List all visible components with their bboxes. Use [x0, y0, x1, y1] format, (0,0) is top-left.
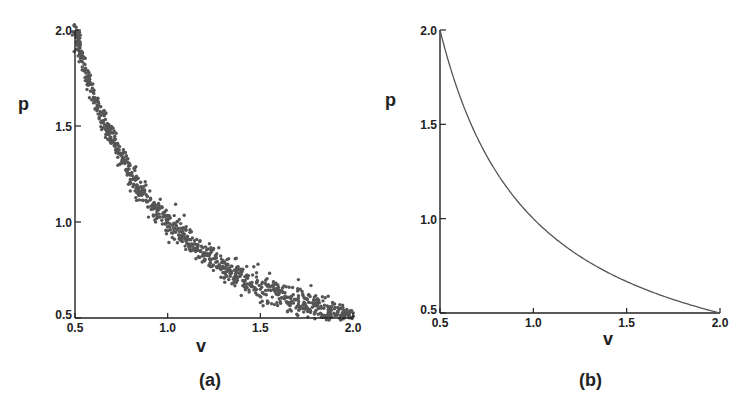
data-point [87, 84, 90, 87]
data-point [147, 215, 150, 218]
caption-b: (b) [579, 370, 602, 390]
data-point [301, 303, 304, 306]
data-point [131, 185, 134, 188]
data-point [314, 294, 317, 297]
data-point [183, 244, 186, 247]
data-point [198, 255, 201, 258]
curve-b [440, 30, 720, 313]
data-point [268, 272, 271, 275]
data-point [148, 199, 151, 202]
chart-b: 0.51.01.52.00.51.01.52.0 p v (b) [373, 0, 746, 402]
data-point [281, 291, 284, 294]
data-point [165, 232, 168, 235]
data-point [201, 251, 204, 254]
y-tick-label: 1.5 [420, 118, 437, 132]
data-point [160, 219, 163, 222]
data-point [195, 238, 198, 241]
data-point [217, 246, 220, 249]
data-point [256, 263, 259, 266]
data-point [91, 82, 94, 85]
data-point [308, 308, 311, 311]
data-point [114, 132, 117, 135]
data-point [219, 276, 222, 279]
data-point [276, 293, 279, 296]
data-point [291, 286, 294, 289]
data-point [329, 313, 332, 316]
scatter-points-a [71, 23, 355, 322]
data-point [196, 246, 199, 249]
data-point [91, 87, 94, 90]
data-point [104, 136, 107, 139]
data-point [129, 189, 132, 192]
data-point [280, 296, 283, 299]
data-point [82, 62, 85, 65]
data-point [104, 124, 107, 127]
data-point [118, 163, 121, 166]
data-point [327, 318, 330, 321]
data-point [131, 178, 134, 181]
data-point [184, 239, 187, 242]
data-point [265, 277, 268, 280]
data-point [235, 281, 238, 284]
data-point [116, 156, 119, 159]
data-point [219, 254, 222, 257]
data-point [176, 220, 179, 223]
data-point [198, 239, 201, 242]
data-point [279, 300, 282, 303]
data-point [134, 196, 137, 199]
data-point [127, 183, 130, 186]
data-point [218, 264, 221, 267]
data-point [321, 299, 324, 302]
data-point [141, 191, 144, 194]
data-point [96, 112, 99, 115]
y-tick-label: 2.0 [420, 24, 437, 38]
data-point [228, 267, 231, 270]
data-point [77, 54, 80, 57]
data-point [125, 154, 128, 157]
data-point [347, 311, 350, 314]
x-tick-label: 1.0 [159, 321, 176, 335]
data-point [308, 301, 311, 304]
data-point [87, 71, 90, 74]
data-point [182, 226, 185, 229]
data-point [212, 269, 215, 272]
data-point [103, 127, 106, 130]
data-point [146, 195, 149, 198]
data-point [297, 297, 300, 300]
data-point [122, 159, 125, 162]
y-tick-label: 1.5 [55, 120, 72, 134]
data-point [252, 265, 255, 268]
data-point [116, 143, 119, 146]
data-point [276, 304, 279, 307]
data-point [135, 184, 138, 187]
data-point [203, 258, 206, 261]
data-point [286, 310, 289, 313]
data-point [308, 295, 311, 298]
data-point [255, 281, 258, 284]
data-point [255, 293, 258, 296]
data-point [174, 203, 177, 206]
data-point [128, 162, 131, 165]
axes-b: 0.51.01.52.00.51.01.52.0 [420, 24, 728, 330]
data-point [227, 278, 230, 281]
data-point [317, 298, 320, 301]
data-point [155, 217, 158, 220]
data-point [181, 240, 184, 243]
data-point [273, 303, 276, 306]
data-point [333, 307, 336, 310]
data-point [259, 301, 262, 304]
data-point [80, 60, 83, 63]
data-point [245, 265, 248, 268]
data-point [274, 283, 277, 286]
data-point [250, 285, 253, 288]
data-point [81, 51, 84, 54]
x-tick-label: 1.5 [618, 316, 635, 330]
data-point [327, 295, 330, 298]
y-tick-label: 0.5 [55, 308, 72, 322]
data-point [78, 45, 81, 48]
data-point [260, 286, 263, 289]
data-point [148, 189, 151, 192]
data-point [141, 187, 144, 190]
data-point [251, 273, 254, 276]
x-tick-label: 1.0 [525, 316, 542, 330]
